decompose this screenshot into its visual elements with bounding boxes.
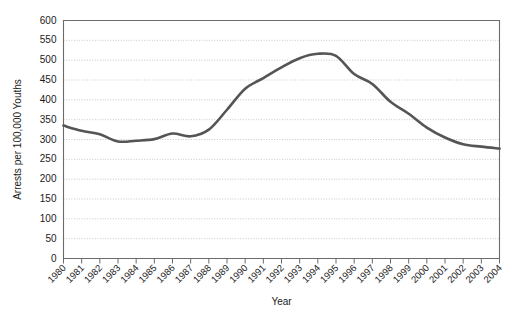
x-tick-label-1988: 1988 [191, 262, 214, 285]
x-tick-label-1986: 1986 [154, 262, 177, 285]
y-tick-label-250: 250 [40, 153, 57, 164]
x-tick-label-2000: 2000 [409, 262, 432, 285]
y-axis-title: Arrests per 100,000 Youths [12, 79, 23, 200]
gridline-group [64, 40, 500, 238]
series-line-arrest-rate [64, 53, 500, 148]
x-tick-label-2003: 2003 [463, 262, 486, 285]
y-tick-label-500: 500 [40, 54, 57, 65]
x-tick-label-1983: 1983 [100, 262, 123, 285]
x-tick-label-1993: 1993 [281, 262, 304, 285]
x-tick-label-1997: 1997 [354, 262, 377, 285]
x-axis-tick-labels: 1980198119821983198419851986198719881989… [45, 262, 504, 285]
y-tick-label-400: 400 [40, 94, 57, 105]
x-tick-label-1984: 1984 [118, 262, 141, 285]
x-tick-label-1982: 1982 [82, 262, 105, 285]
line-chart-figure: 600550500450400350300250200150100500 198… [0, 0, 519, 320]
chart-canvas: 600550500450400350300250200150100500 198… [0, 0, 519, 320]
x-tick-label-1987: 1987 [172, 262, 195, 285]
x-tick-label-1995: 1995 [318, 262, 341, 285]
y-tick-label-300: 300 [40, 134, 57, 145]
y-tick-label-200: 200 [40, 173, 57, 184]
y-tick-label-100: 100 [40, 213, 57, 224]
y-tick-label-0: 0 [51, 253, 57, 264]
x-tick-label-2004: 2004 [481, 262, 504, 285]
x-tick-label-1994: 1994 [300, 262, 323, 285]
y-tick-label-150: 150 [40, 193, 57, 204]
y-axis-tick-labels: 600550500450400350300250200150100500 [40, 15, 57, 264]
x-tick-label-2001: 2001 [427, 262, 450, 285]
x-tick-label-1990: 1990 [227, 262, 250, 285]
x-tick-label-1980: 1980 [45, 262, 68, 285]
x-tick-label-2002: 2002 [445, 262, 468, 285]
y-tick-label-50: 50 [45, 233, 57, 244]
x-tick-label-1985: 1985 [136, 262, 159, 285]
y-tick-label-600: 600 [40, 15, 57, 26]
x-tick-label-1996: 1996 [336, 262, 359, 285]
x-tick-label-1989: 1989 [209, 262, 232, 285]
y-tick-label-450: 450 [40, 74, 57, 85]
x-tick-label-1991: 1991 [245, 262, 268, 285]
y-tick-label-350: 350 [40, 114, 57, 125]
x-tick-label-1981: 1981 [63, 262, 86, 285]
x-tick-label-1998: 1998 [372, 262, 395, 285]
x-axis-title: Year [271, 296, 292, 307]
x-tick-label-1999: 1999 [390, 262, 413, 285]
x-tick-label-1992: 1992 [263, 262, 286, 285]
x-axis-tick-marks [64, 259, 500, 264]
y-tick-label-550: 550 [40, 34, 57, 45]
